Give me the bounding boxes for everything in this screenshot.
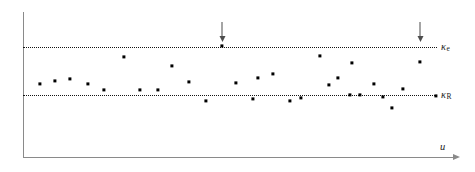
plot-surface: κeκR u <box>0 0 475 172</box>
data-point <box>348 93 351 96</box>
data-point <box>86 82 89 85</box>
data-point <box>350 61 353 64</box>
data-point <box>220 44 223 47</box>
data-point <box>327 83 330 86</box>
data-point <box>204 99 207 102</box>
data-point <box>318 54 321 57</box>
data-point <box>170 64 173 67</box>
reference-label-kappa_R: κR <box>441 90 451 101</box>
data-point <box>68 77 71 80</box>
data-point <box>234 81 237 84</box>
data-point <box>251 97 254 100</box>
data-point <box>299 96 302 99</box>
x-axis-line <box>23 157 455 158</box>
data-point <box>401 87 404 90</box>
data-point <box>434 94 437 97</box>
data-point <box>418 60 421 63</box>
data-point <box>372 82 375 85</box>
data-point <box>336 76 339 79</box>
data-point <box>271 72 274 75</box>
x-axis-label: u <box>440 142 445 153</box>
x-axis-arrowhead-icon <box>453 154 460 160</box>
data-point <box>256 76 259 79</box>
reference-line-kappa_R <box>23 95 437 96</box>
data-point <box>187 80 190 83</box>
data-point <box>358 93 361 96</box>
reference-label-kappa_e: κe <box>441 42 450 53</box>
down-arrow-shaft <box>420 22 421 37</box>
reference-label-subscript: R <box>446 92 451 101</box>
data-point <box>138 88 141 91</box>
data-point <box>38 82 41 85</box>
data-point <box>288 99 291 102</box>
down-arrow-icon <box>417 36 423 42</box>
reference-label-subscript: e <box>446 44 450 53</box>
data-point <box>102 88 105 91</box>
data-point <box>53 79 56 82</box>
y-axis-line <box>23 12 24 158</box>
data-point <box>122 55 125 58</box>
down-arrow-icon <box>219 36 225 42</box>
scatter-plot-figure: κeκR u <box>0 0 475 172</box>
data-point <box>381 95 384 98</box>
reference-line-kappa_e <box>23 47 437 48</box>
data-point <box>156 88 159 91</box>
data-point <box>390 106 393 109</box>
down-arrow-shaft <box>222 22 223 37</box>
